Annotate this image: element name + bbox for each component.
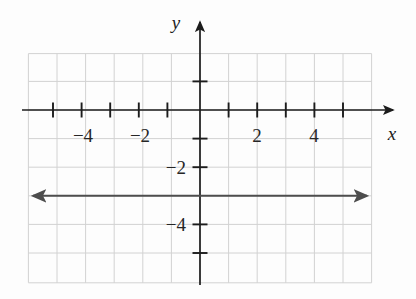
x-tick-label-neg2: −2	[130, 125, 150, 146]
graph-canvas: −4 −2 2 4 −2 −4 y x	[0, 0, 416, 299]
x-tick-label-neg4: −4	[73, 125, 94, 146]
y-axis	[193, 22, 208, 285]
coordinate-plane-figure: −4 −2 2 4 −2 −4 y x	[0, 0, 416, 299]
y-tick-label-neg4: −4	[166, 214, 187, 235]
x-tick-label-pos4: 4	[309, 125, 319, 146]
x-tick-label-pos2: 2	[252, 125, 262, 146]
x-axis	[22, 103, 393, 118]
y-tick-label-neg2: −2	[166, 157, 186, 178]
y-axis-label: y	[170, 12, 181, 33]
x-axis-label: x	[387, 123, 397, 144]
